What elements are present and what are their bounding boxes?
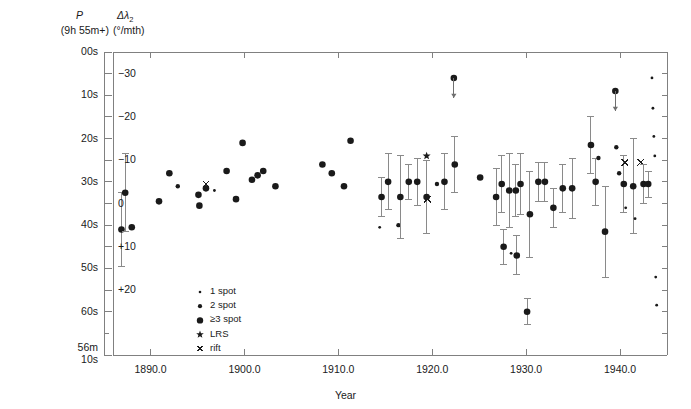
spot-marker (653, 154, 656, 157)
right-axis-title-symbol-subscript: 2 (129, 15, 133, 24)
x-axis-title: Year (0, 389, 691, 401)
spot-marker (510, 252, 513, 255)
spot-marker (328, 170, 335, 177)
legend-dot-icon-dot-large (197, 317, 203, 323)
spot-marker (156, 198, 163, 205)
right-axis-title-units: (°/mth) (113, 24, 145, 36)
spot-marker (617, 171, 621, 175)
data-point (500, 229, 507, 264)
spot-marker (405, 179, 412, 186)
spot-marker (435, 182, 439, 186)
data-point (624, 206, 627, 209)
spot-marker (195, 192, 202, 199)
data-point (414, 158, 421, 206)
data-point (223, 168, 230, 175)
data-point (654, 276, 657, 279)
spot-marker (524, 308, 531, 315)
data-point (196, 202, 203, 209)
y-tick-label-drift: +20 (118, 283, 136, 295)
spot-marker (621, 181, 628, 188)
lrs-star-marker (423, 152, 431, 160)
data-point (451, 136, 458, 192)
spot-marker (378, 226, 381, 229)
x-tick-label: 1910.0 (308, 363, 368, 375)
spot-marker (651, 77, 654, 80)
upper-limit-arrow-head (451, 94, 456, 98)
legend-label-0: 1 spot (210, 285, 236, 296)
figure-root: P (9h 55m+) Δλ2 (°/mth) Year 1890.01900.… (0, 0, 691, 409)
spot-marker (634, 217, 637, 220)
spot-marker (517, 181, 524, 188)
data-point (517, 154, 524, 215)
legend-star-icon (196, 331, 204, 338)
legend-label-4: rift (210, 342, 221, 353)
data-point (634, 217, 637, 220)
spot-marker (254, 172, 261, 179)
data-point (612, 88, 619, 111)
y-tick-label-period: 20s (44, 132, 98, 144)
spot-marker (493, 194, 500, 201)
spot-marker (260, 168, 267, 175)
data-point (272, 183, 279, 190)
legend-label-2: ≥3 spot (210, 313, 241, 324)
y-tick-label-period-bottom-seconds: 10s (44, 353, 98, 365)
data-point (493, 169, 500, 225)
data-point (378, 226, 381, 229)
data-point (156, 198, 163, 205)
data-point (506, 154, 513, 228)
data-point (341, 183, 348, 190)
right-axis-title-symbol: Δλ2 (117, 9, 133, 24)
spot-marker (166, 170, 173, 177)
data-point (596, 156, 600, 160)
x-tick-label: 1900.0 (214, 363, 274, 375)
data-point (128, 224, 135, 231)
data-point (602, 186, 609, 277)
data-point (510, 252, 513, 255)
y-tick-label-period: 50s (44, 261, 98, 273)
y-tick-label-period: 10s (44, 88, 98, 100)
data-point (405, 165, 412, 200)
y-tick-label-period: 30s (44, 175, 98, 187)
data-point (328, 170, 335, 177)
spot-marker (203, 185, 210, 192)
spot-marker (592, 179, 599, 186)
legend-symbols-layer (196, 291, 204, 352)
spot-marker (385, 179, 392, 186)
data-point (645, 171, 652, 197)
spot-marker (341, 183, 348, 190)
data-point (513, 236, 520, 275)
y-tick-label-drift: −10 (118, 153, 136, 165)
spot-marker (196, 202, 203, 209)
data-point (653, 154, 656, 157)
spot-marker (569, 185, 576, 192)
data-point (166, 170, 173, 177)
spot-marker (477, 174, 484, 181)
chart-canvas (0, 0, 691, 409)
y-tick-label-drift: 0 (118, 197, 124, 209)
spot-marker (645, 181, 652, 188)
spot-marker (654, 276, 657, 279)
x-tick-label: 1890.0 (121, 363, 181, 375)
spot-marker (596, 156, 600, 160)
spot-marker (128, 224, 135, 231)
data-point (651, 77, 654, 80)
data-point (512, 165, 519, 217)
data-point (614, 145, 618, 149)
spot-marker (397, 194, 404, 201)
data-point (254, 172, 261, 179)
spot-marker (223, 168, 230, 175)
spot-marker (602, 228, 609, 235)
spot-marker (249, 176, 256, 183)
data-point (592, 158, 599, 206)
legend-label-3: LRS (210, 328, 228, 339)
x-tick-label: 1930.0 (496, 363, 556, 375)
spot-marker (498, 181, 505, 188)
data-point (524, 299, 531, 325)
data-point (260, 168, 267, 175)
data-point (652, 135, 655, 138)
spot-marker (176, 184, 180, 188)
y-tick-label-period: 60s (44, 305, 98, 317)
data-point (498, 156, 505, 212)
spot-marker (535, 179, 542, 186)
data-point (378, 178, 385, 217)
